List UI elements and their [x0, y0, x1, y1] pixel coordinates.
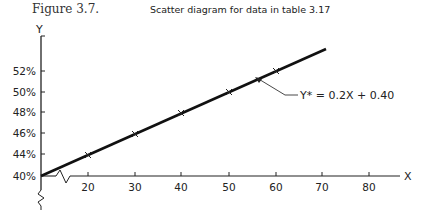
- y-tick-label: 44%: [13, 148, 36, 160]
- x-tick-label: 50: [222, 181, 235, 193]
- x-axis: X 20 30 40 50 60 70 80: [41, 170, 412, 193]
- y-tick-label: 40%: [13, 170, 36, 182]
- y-tick-label: 52%: [13, 65, 36, 77]
- x-tick-label: 80: [362, 181, 375, 193]
- x-tick-label: 40: [174, 181, 187, 193]
- x-tick-label: 60: [269, 181, 282, 193]
- regression-equation: Y* = 0.2X + 0.40: [299, 89, 394, 102]
- x-axis-break-icon: [56, 170, 70, 183]
- regression-line: [41, 49, 326, 176]
- equation-annotation: Y* = 0.2X + 0.40: [255, 77, 394, 102]
- x-axis-label: X: [404, 170, 412, 183]
- y-tick-label: 46%: [13, 127, 36, 139]
- y-tick-label: 50%: [13, 86, 36, 98]
- x-tick-label: 70: [315, 181, 328, 193]
- y-axis-break-icon: [38, 190, 44, 210]
- y-axis-label: Y: [35, 23, 43, 36]
- y-axis: Y 52% 50% 48% 46% 44% 40%: [13, 23, 45, 210]
- y-tick-label: 48%: [13, 106, 36, 118]
- x-tick-label: 30: [128, 181, 141, 193]
- x-tick-label: 20: [81, 181, 94, 193]
- scatter-chart: Y 52% 50% 48% 46% 44% 40% X 20 30 40 50 …: [0, 0, 426, 220]
